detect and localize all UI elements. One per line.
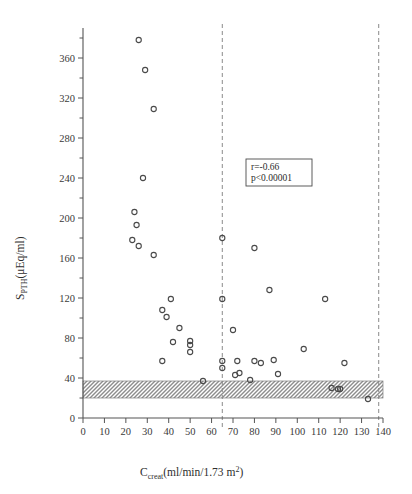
- stats-annotation-box: r=-0.66 p<0.00001: [246, 159, 312, 186]
- scatter-plot-figure: 04080120160200240280320360 0102030405060…: [0, 0, 412, 494]
- y-tick-label: 320: [59, 93, 75, 104]
- y-tick-label: 280: [59, 133, 75, 144]
- x-tick-label: 130: [354, 426, 370, 437]
- x-tick-label: 70: [228, 426, 239, 437]
- y-tick-label: 120: [59, 293, 75, 304]
- x-tick-label: 140: [375, 426, 391, 437]
- x-axis-subscript: creat: [148, 472, 164, 481]
- x-tick-label: 60: [206, 426, 217, 437]
- x-axis-units-post: ): [239, 466, 243, 479]
- y-tick-label: 40: [65, 373, 76, 384]
- y-tick-label: 80: [65, 333, 76, 344]
- y-axis-subscript: PTH: [20, 278, 29, 293]
- x-axis-units-pre: (ml/min/1.73 m: [163, 466, 235, 479]
- y-tick-label: 0: [70, 413, 75, 424]
- x-tick-label: 0: [80, 426, 85, 437]
- y-axis-units: (μEq/ml): [14, 236, 27, 278]
- x-tick-label: 20: [121, 426, 132, 437]
- y-tick-label: 360: [59, 53, 75, 64]
- x-tick-label: 100: [289, 426, 305, 437]
- pvalue-label: p<0.00001: [251, 173, 292, 183]
- correlation-value: r=-0.66: [251, 162, 280, 172]
- x-tick-label: 80: [249, 426, 260, 437]
- x-tick-label: 40: [163, 426, 174, 437]
- x-tick-label: 90: [271, 426, 282, 437]
- x-tick-label: 120: [332, 426, 348, 437]
- y-tick-label: 240: [59, 173, 75, 184]
- y-tick-label: 200: [59, 213, 75, 224]
- x-tick-label: 50: [185, 426, 196, 437]
- x-tick-label: 30: [142, 426, 153, 437]
- figure-background: [0, 0, 412, 494]
- x-tick-label: 10: [99, 426, 110, 437]
- plot-canvas: 04080120160200240280320360 0102030405060…: [0, 0, 412, 494]
- x-axis-tick-labels: 0102030405060708090100110120130140: [80, 426, 391, 437]
- y-tick-label: 160: [59, 253, 75, 264]
- x-tick-label: 110: [311, 426, 326, 437]
